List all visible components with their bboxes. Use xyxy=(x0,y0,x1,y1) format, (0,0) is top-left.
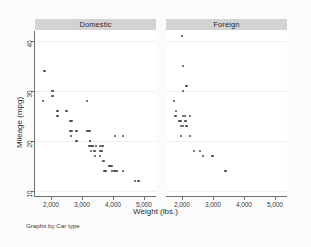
x-axis-line-domestic xyxy=(35,196,156,197)
gridline-horizontal xyxy=(166,191,287,192)
y-axis-line xyxy=(34,31,35,197)
data-point xyxy=(101,145,104,148)
x-tick-label: 5,000 xyxy=(261,201,289,208)
data-point xyxy=(75,130,78,133)
data-point xyxy=(70,130,73,133)
x-tick-label: 5,000 xyxy=(130,201,158,208)
x-tick xyxy=(182,197,183,200)
x-tick-label: 2,000 xyxy=(37,201,65,208)
data-point xyxy=(110,165,113,168)
x-tick-label: 3,000 xyxy=(199,201,227,208)
gridline-horizontal xyxy=(35,191,156,192)
data-point xyxy=(185,125,188,128)
y-axis-title: Mileage (mpg) xyxy=(15,97,24,148)
gridline-horizontal xyxy=(166,141,287,142)
x-tick-label: 3,000 xyxy=(68,201,96,208)
x-tick xyxy=(244,197,245,200)
x-axis-title: Weight (lbs.) xyxy=(0,207,311,216)
x-tick-label: 2,000 xyxy=(168,201,196,208)
data-point xyxy=(70,120,73,123)
y-tick-label: 20 xyxy=(26,141,33,157)
data-point xyxy=(185,85,188,88)
y-tick-label: 30 xyxy=(26,91,33,107)
plot-area-domestic xyxy=(35,31,156,196)
data-point xyxy=(43,70,46,73)
x-axis-line-foreign xyxy=(166,196,287,197)
y-tick-label: 10 xyxy=(26,191,33,207)
data-point xyxy=(88,130,91,133)
stata-graph-canvas: Mileage (mpg) Weight (lbs.) Graphs by Ca… xyxy=(0,0,311,247)
x-tick xyxy=(82,197,83,200)
data-point xyxy=(211,155,214,158)
x-tick xyxy=(113,197,114,200)
data-point xyxy=(174,115,177,118)
data-point xyxy=(184,120,187,123)
y-tick-label: 40 xyxy=(26,41,33,57)
x-tick xyxy=(213,197,214,200)
gridline-horizontal xyxy=(35,141,156,142)
panel-header-foreign: Foreign xyxy=(166,19,287,30)
panel-header-domestic: Domestic xyxy=(35,19,156,30)
x-tick-label: 4,000 xyxy=(230,201,258,208)
x-tick xyxy=(275,197,276,200)
x-tick xyxy=(51,197,52,200)
x-tick-label: 4,000 xyxy=(99,201,127,208)
data-point xyxy=(75,140,78,143)
x-tick xyxy=(144,197,145,200)
gridline-horizontal xyxy=(35,41,156,42)
gridline-horizontal xyxy=(166,91,287,92)
gridline-horizontal xyxy=(166,41,287,42)
graph-caption: Graphs by Car type xyxy=(26,222,80,229)
